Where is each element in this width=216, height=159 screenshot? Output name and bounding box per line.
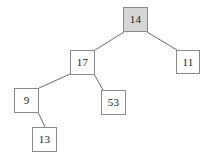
tree-edge [94,74,103,90]
tree-node-11[interactable]: 11 [176,50,200,74]
tree-node-label: 53 [108,97,119,108]
tree-edge [38,112,45,127]
tree-edge [95,32,124,50]
tree-node-17[interactable]: 17 [70,50,95,75]
tree-node-label: 9 [24,95,30,106]
tree-node-label: 14 [130,14,141,25]
tree-node-53[interactable]: 53 [101,90,126,115]
tree-diagram-canvas: 14171195313 [0,0,216,159]
tree-node-label: 13 [39,134,50,145]
tree-node-13[interactable]: 13 [32,127,57,152]
tree-node-9[interactable]: 9 [14,88,39,113]
tree-node-label: 17 [77,57,88,68]
tree-node-14[interactable]: 14 [123,7,148,32]
tree-edge [39,74,70,88]
tree-node-label: 11 [183,56,194,67]
tree-edge [147,32,177,50]
